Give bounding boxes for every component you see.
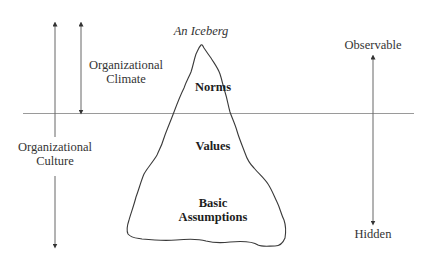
hidden-label: Hidden: [340, 227, 406, 241]
climate-label-line1: Organizational: [86, 58, 166, 72]
culture-label-line1: Organizational: [13, 140, 97, 154]
layer-norms: Norms: [188, 80, 238, 94]
climate-label-line2: Climate: [86, 72, 166, 86]
observable-label: Observable: [340, 38, 406, 52]
layer-basic-assumptions: Basic Assumptions: [168, 196, 258, 224]
assumptions-line1: Basic: [168, 196, 258, 210]
layer-values: Values: [186, 139, 240, 153]
culture-label: Organizational Culture: [13, 140, 97, 168]
iceberg-diagram: An Iceberg Organizational Climate Organi…: [0, 0, 426, 255]
assumptions-line2: Assumptions: [168, 210, 258, 224]
culture-label-line2: Culture: [13, 154, 97, 168]
diagram-title: An Iceberg: [170, 24, 232, 38]
climate-label: Organizational Climate: [86, 58, 166, 86]
